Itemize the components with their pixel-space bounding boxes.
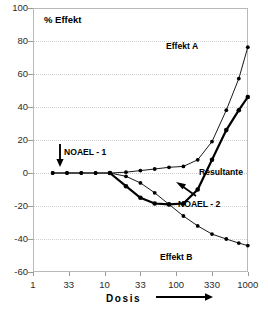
series-resultante xyxy=(108,95,251,207)
chart-figure: 100 80 60 40 20 0 -20 -40 -60 1 33 10 33… xyxy=(0,0,268,312)
series-effekt-a xyxy=(51,45,250,175)
annotation-noael-1-arrow xyxy=(56,144,63,167)
x-axis-arrow xyxy=(156,293,213,301)
series-layer xyxy=(0,0,268,312)
series-effekt-b xyxy=(51,171,250,247)
